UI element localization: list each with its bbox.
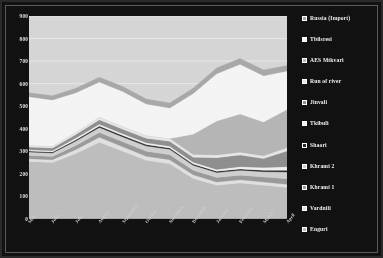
legend-item[interactable]: Russia (Import) — [302, 14, 350, 23]
y-axis: 0100200300400500600700800900 — [6, 10, 28, 225]
legend-item[interactable]: Shaori — [302, 141, 327, 150]
legend-item-label: Vardnili — [310, 205, 331, 212]
legend-swatch-icon — [302, 37, 307, 42]
legend-item-label: Tbilsresi — [310, 36, 332, 43]
y-axis-tick-label: 600 — [20, 81, 28, 87]
y-axis-tick-label: 400 — [20, 126, 28, 132]
legend-item-label: Khrami 2 — [310, 163, 334, 170]
legend-item[interactable]: Tkibuli — [302, 119, 329, 128]
legend-item[interactable]: Tbilsresi — [302, 35, 332, 44]
legend-swatch-icon — [302, 185, 307, 190]
legend-swatch-icon — [302, 143, 307, 148]
legend-item-label: Enguri — [310, 226, 328, 233]
legend-swatch-icon — [302, 164, 307, 169]
legend-item-label: AES Mtkvari — [310, 57, 344, 64]
legend-item[interactable]: Vardnili — [302, 204, 331, 213]
plot-area — [29, 16, 287, 219]
legend-swatch-icon — [302, 227, 307, 232]
y-axis-tick-label: 100 — [20, 193, 28, 199]
legend-item[interactable]: Jinvali — [302, 98, 327, 107]
x-axis: MayJuneJulyAugustSeptemberOctoberNovembe… — [29, 219, 287, 258]
y-axis-tick-label: 700 — [20, 58, 28, 64]
legend-swatch-icon — [302, 79, 307, 84]
legend-item-label: Russia (Import) — [310, 15, 350, 22]
legend-item-label: Jinvali — [310, 99, 327, 106]
chart-legend: Russia (Import)TbilsresiAES MtkvariRun o… — [302, 14, 382, 246]
legend-item[interactable]: Enguri — [302, 225, 328, 234]
y-axis-tick-label: 500 — [20, 103, 28, 109]
legend-item[interactable]: Run of river — [302, 77, 341, 86]
legend-item-label: Khrami 1 — [310, 184, 334, 191]
legend-item-label: Tkibuli — [310, 120, 329, 127]
chart-window: 0100200300400500600700800900 MayJuneJuly… — [0, 0, 383, 258]
legend-item-label: Shaori — [310, 142, 327, 149]
stacked-area-chart — [29, 16, 287, 219]
legend-item[interactable]: AES Mtkvari — [302, 56, 344, 65]
y-axis-tick-label: 800 — [20, 36, 28, 42]
legend-item[interactable]: Khrami 1 — [302, 183, 334, 192]
legend-swatch-icon — [302, 121, 307, 126]
y-axis-tick-label: 900 — [20, 13, 28, 19]
legend-swatch-icon — [302, 206, 307, 211]
legend-swatch-icon — [302, 58, 307, 63]
legend-item-label: Run of river — [310, 78, 341, 85]
legend-swatch-icon — [302, 100, 307, 105]
legend-swatch-icon — [302, 16, 307, 21]
y-axis-tick-label: 300 — [20, 148, 28, 154]
legend-item[interactable]: Khrami 2 — [302, 162, 334, 171]
y-axis-tick-label: 200 — [20, 171, 28, 177]
